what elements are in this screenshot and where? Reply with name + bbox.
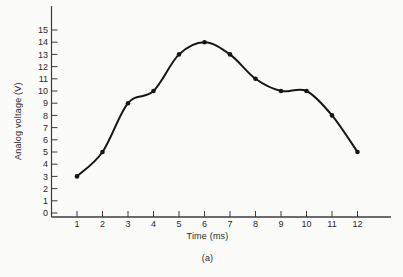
- x-tick-label: 9: [278, 219, 283, 229]
- y-tick-label: 15: [38, 25, 48, 35]
- y-tick-label: 3: [43, 172, 48, 182]
- x-tick-label: 2: [100, 219, 105, 229]
- y-tick-label: 14: [38, 37, 48, 47]
- y-tick-label: 4: [43, 159, 48, 169]
- x-tick-label: 3: [125, 219, 130, 229]
- x-tick-label: 7: [227, 219, 232, 229]
- y-tick-label: 2: [43, 184, 48, 194]
- y-axis-title: Analog voltage (V): [13, 58, 23, 184]
- y-tick-label: 12: [38, 62, 48, 72]
- y-tick-label: 5: [43, 147, 48, 157]
- x-tick-label: 5: [176, 219, 181, 229]
- data-point-marker: [126, 101, 131, 106]
- voltage-curve: [77, 42, 358, 176]
- x-tick-label: 10: [301, 219, 311, 229]
- figure-caption: (a): [150, 253, 265, 263]
- y-tick-label: 8: [43, 111, 48, 121]
- y-tick-label: 7: [43, 123, 48, 133]
- x-tick-label: 8: [253, 219, 258, 229]
- y-tick-label: 6: [43, 135, 48, 145]
- y-tick-label: 11: [39, 74, 48, 84]
- y-tick-label: 0: [43, 208, 48, 218]
- data-point-marker: [304, 89, 309, 94]
- y-tick-label: 13: [38, 50, 48, 60]
- x-axis-title: Time (ms): [150, 231, 265, 241]
- data-point-marker: [202, 40, 207, 45]
- y-tick-label: 1: [43, 196, 48, 206]
- y-tick-label: 9: [43, 98, 48, 108]
- x-tick-label: 4: [151, 219, 156, 229]
- x-tick-label: 12: [352, 219, 362, 229]
- data-point-marker: [75, 174, 80, 179]
- y-tick-label: 10: [38, 86, 48, 96]
- data-point-marker: [151, 89, 156, 94]
- analog-voltage-figure: 0123456789101112131415123456789101112 An…: [0, 0, 403, 277]
- x-tick-label: 11: [327, 219, 336, 229]
- data-point-marker: [177, 52, 182, 57]
- data-point-marker: [100, 150, 105, 155]
- x-tick-label: 1: [74, 219, 79, 229]
- data-point-marker: [279, 89, 284, 94]
- data-point-marker: [228, 52, 233, 57]
- x-tick-label: 6: [202, 219, 207, 229]
- data-point-marker: [253, 77, 258, 82]
- data-point-marker: [330, 113, 335, 118]
- data-point-marker: [355, 150, 360, 155]
